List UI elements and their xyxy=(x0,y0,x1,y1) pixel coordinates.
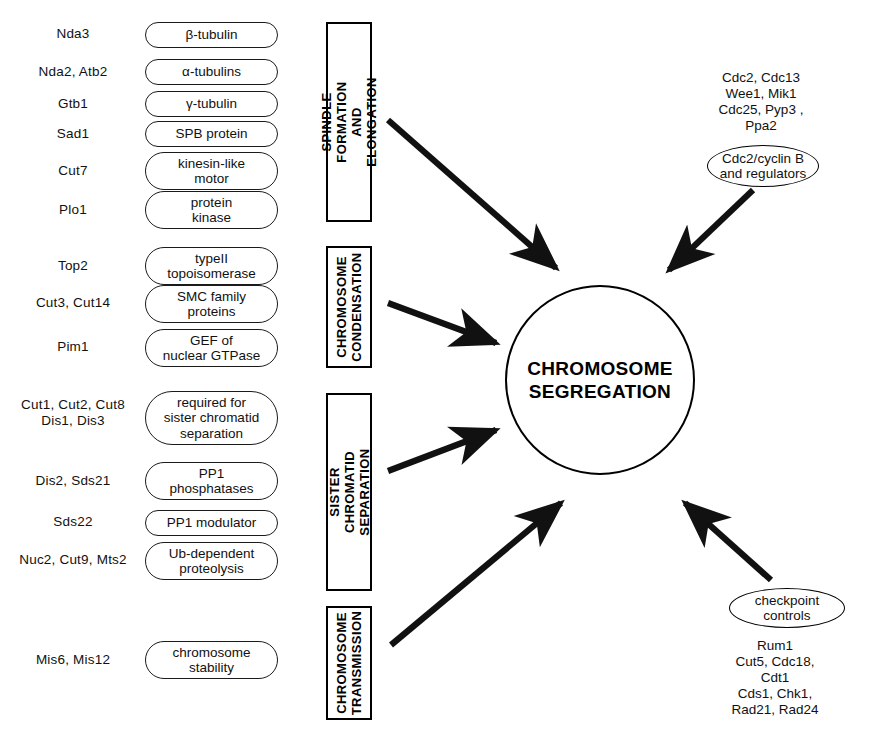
gene-label-cut3-cut14: Cut3, Cut14 xyxy=(36,295,110,311)
regulator-node-checkpoint-controls: checkpoint controls xyxy=(729,588,845,628)
arrow-condensation-to-center xyxy=(388,303,496,343)
process-box-spindle-formation-and-elongation: SPINDLE FORMATION AND ELONGATION xyxy=(326,22,372,222)
function-box-sister-separation: required for sister chromatid separation xyxy=(145,391,278,445)
gene-label-nuc2-cut9-mts2: Nuc2, Cut9, Mts2 xyxy=(19,552,127,568)
function-box-smc-family: SMC family proteins xyxy=(145,285,278,323)
function-box-ub-proteolysis: Ub-dependent proteolysis xyxy=(145,542,278,580)
gene-label-top2: Top2 xyxy=(58,258,88,274)
regulator-node-cdc2-cyclin-b: Cdc2/cyclin B and regulators xyxy=(707,145,819,187)
process-label-spindle-formation: SPINDLE FORMATION AND ELONGATION xyxy=(319,77,379,167)
function-box-chromosome-stability: chromosome stability xyxy=(145,641,278,679)
gene-label-dis2-sds21: Dis2, Sds21 xyxy=(36,473,111,489)
gene-label-mis6-mis12: Mis6, Mis12 xyxy=(36,652,110,668)
process-box-chromosome-transmission: CHROMOSOME TRANSMISSION xyxy=(326,606,372,720)
arrow-spindle-to-center xyxy=(388,120,556,268)
gene-label-gtb1: Gtb1 xyxy=(58,96,88,112)
process-label-sister-chromatid-separation: SISTER CHROMATID SEPARATION xyxy=(327,448,372,535)
gene-label-nda3: Nda3 xyxy=(56,26,89,42)
function-box-spb-protein: SPB protein xyxy=(145,121,278,147)
function-box-pp1-modulator: PP1 modulator xyxy=(145,510,278,536)
function-box-topoisomerase: typeII topoisomerase xyxy=(145,247,278,285)
function-box-gamma-tubulin: γ-tubulin xyxy=(145,91,278,117)
function-box-kinesin-motor: kinesin-like motor xyxy=(145,152,278,190)
gene-label-plo1: Plo1 xyxy=(59,202,87,218)
gene-label-sds22: Sds22 xyxy=(53,514,92,530)
process-label-chromosome-transmission: CHROMOSOME TRANSMISSION xyxy=(334,611,364,715)
gene-label-cut1-cut2-cut8: Cut1, Cut2, Cut8 Dis1, Dis3 xyxy=(21,397,125,428)
arrow-transmission-to-center xyxy=(391,503,561,645)
function-box-gef-gtpase: GEF of nuclear GTPase xyxy=(145,329,278,367)
arrow-cdc2-to-center xyxy=(669,190,753,270)
diagram-canvas: Nda3 Nda2, Atb2 Gtb1 Sad1 Cut7 Plo1 β-tu… xyxy=(0,0,880,732)
gene-label-pim1: Pim1 xyxy=(57,339,89,355)
function-box-protein-kinase: protein kinase xyxy=(145,191,278,229)
function-box-beta-tubulin: β-tubulin xyxy=(145,22,278,48)
arrow-checkpoint-to-center xyxy=(685,503,771,580)
regulator-gene-list-cdc2: Cdc2, Cdc13 Wee1, Mik1 Cdc25, Pyp3 , Ppa… xyxy=(702,70,821,134)
gene-label-nda2-atb2: Nda2, Atb2 xyxy=(39,64,108,80)
gene-label-sad1: Sad1 xyxy=(57,126,89,142)
regulator-gene-list-checkpoint: Rum1 Cut5, Cdc18, Cdt1 Cds1, Chk1, Rad21… xyxy=(723,638,828,718)
process-box-chromosome-condensation: CHROMOSOME CONDENSATION xyxy=(326,246,372,368)
function-box-alpha-tubulins: α-tubulins xyxy=(145,59,278,85)
process-label-chromosome-condensation: CHROMOSOME CONDENSATION xyxy=(334,252,364,361)
process-box-sister-chromatid-separation: SISTER CHROMATID SEPARATION xyxy=(326,393,372,591)
central-node-chromosome-segregation: CHROMOSOME SEGREGATION xyxy=(505,285,695,475)
arrow-sister-to-center xyxy=(388,430,496,471)
gene-label-cut7: Cut7 xyxy=(58,163,87,179)
function-box-pp1-phosphatases: PP1 phosphatases xyxy=(145,462,278,500)
